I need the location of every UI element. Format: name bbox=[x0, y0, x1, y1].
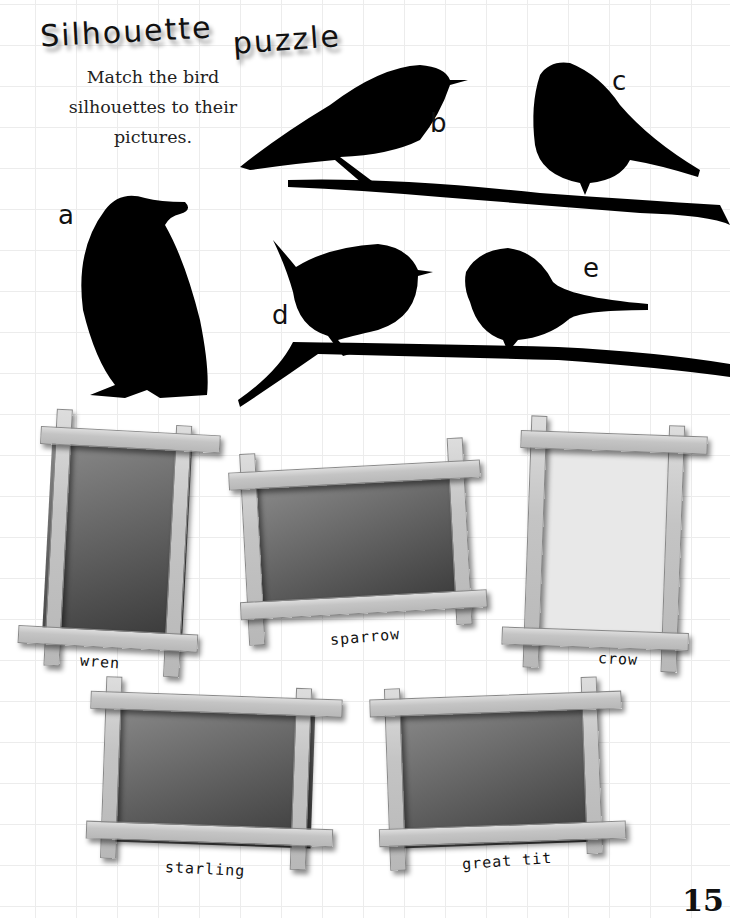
bird-a-silhouette bbox=[75, 190, 215, 405]
picture-frame-great-tit bbox=[369, 676, 625, 875]
page-number: 15 bbox=[682, 883, 724, 918]
branch-top-silhouette bbox=[240, 55, 730, 230]
title-word-silhouette: Silhouette bbox=[39, 10, 213, 54]
caption-crow: crow bbox=[598, 649, 639, 669]
instructions: Match the bird silhouettes to their pict… bbox=[58, 62, 248, 152]
bird-e-silhouette bbox=[465, 248, 648, 352]
picture-frame-sparrow bbox=[227, 442, 487, 645]
bird-d-silhouette bbox=[273, 240, 433, 356]
picture-frame-wren bbox=[8, 407, 221, 677]
silhouette-label-e: e bbox=[583, 253, 599, 283]
silhouette-label-b: b bbox=[430, 108, 447, 138]
caption-starling: starling bbox=[165, 858, 246, 880]
picture-frame-starling bbox=[85, 676, 341, 875]
picture-frame-crow bbox=[501, 415, 710, 672]
caption-wren: wren bbox=[79, 652, 120, 673]
branch-bottom-silhouette bbox=[238, 232, 730, 412]
page-title: Silhouette puzzle bbox=[40, 14, 340, 49]
silhouette-label-a: a bbox=[58, 200, 74, 230]
silhouette-label-d: d bbox=[272, 300, 289, 330]
crow-photo bbox=[534, 446, 681, 641]
silhouette-label-c: c bbox=[612, 66, 626, 96]
